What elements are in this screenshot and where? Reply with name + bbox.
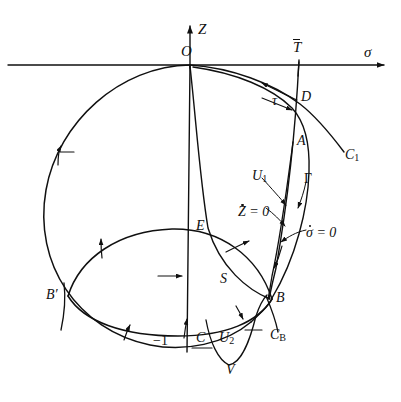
point-b-label: B (276, 291, 285, 305)
point-v-label: V (226, 363, 235, 377)
point-b-prime-label: B′ (46, 288, 58, 302)
u2-subscript: 2 (229, 335, 234, 346)
sigmadot-glyph: σ (306, 226, 313, 240)
u2-base: U (219, 330, 229, 345)
point-d-label: D (301, 90, 311, 104)
t-bar-label: T (293, 40, 301, 55)
lens-upper-curve (68, 229, 272, 299)
t-bar-glyph: T (293, 40, 301, 55)
sigmadot-equation-tail: = 0 (313, 225, 336, 240)
point-c-label: C (196, 331, 205, 345)
point-e-label: E (196, 219, 205, 233)
cb-subscript: B (279, 332, 286, 343)
curve-u2-label: U2 (219, 331, 234, 346)
z-axis-label: Z (198, 22, 206, 37)
point-a-label: A (297, 134, 306, 148)
tau-label: τ (272, 94, 277, 108)
c1-base: C (345, 147, 354, 162)
zdot-glyph: Z (238, 205, 246, 219)
c1-subscript: 1 (354, 152, 359, 163)
sigmadot-leader (281, 230, 306, 242)
minus-one-tick-label: −1 (153, 334, 168, 348)
region-s-label: S (220, 272, 227, 286)
z-axis-lower (187, 65, 190, 352)
cb-base: C (270, 327, 279, 342)
curve-cb-label: CB (270, 328, 286, 343)
zdot-equation-tail: = 0 (246, 204, 269, 219)
Bprime-tail-curve (61, 283, 65, 330)
arrow-circle-lower-right (236, 306, 243, 319)
figure-canvas: Z σ O T D τ A C1 U1 Γ Z = 0 σ = 0 E S B′… (0, 0, 401, 402)
u1-subscript: 1 (262, 173, 267, 184)
origin-label: O (181, 44, 192, 59)
curve-c1-label: C1 (345, 148, 359, 163)
u1-base: U (252, 168, 262, 183)
sigmadot-zero-label: σ = 0 (306, 226, 336, 240)
arrow-lens-upper-left (101, 239, 102, 258)
sigma-axis-label: σ (364, 45, 371, 60)
curve-gamma-label: Γ (304, 172, 312, 186)
curve-u1-label: U1 (252, 169, 267, 184)
zdot-zero-label: Z = 0 (238, 205, 269, 219)
C1-curve (190, 65, 344, 152)
